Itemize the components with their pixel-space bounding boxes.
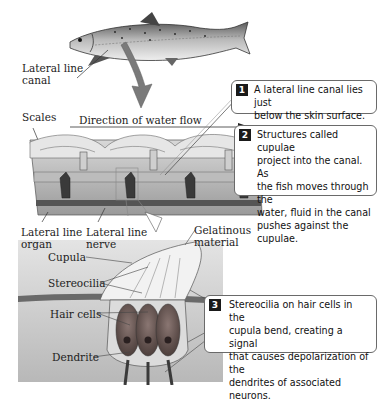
fish-body	[70, 22, 250, 61]
callout-line: Structures called cupulae	[257, 128, 371, 154]
label-line: Lateral line	[21, 226, 82, 238]
callout-line: that causes depolarization of the	[229, 350, 371, 376]
dorsal-fin	[140, 12, 160, 26]
label-hair-cells: Hair cells	[50, 308, 101, 320]
label-lateral-line-organ: Lateral line organ	[21, 226, 82, 250]
callout-line: A lateral line canal lies just	[254, 83, 371, 109]
label-stereocilia: Stereocilia	[48, 277, 105, 289]
label-line: nerve	[86, 238, 147, 250]
label-dendrite: Dendrite	[52, 351, 99, 363]
callout-3: 3 Stereocilia on hair cells in the cupul…	[204, 295, 377, 353]
step-number-badge: 1	[236, 84, 248, 96]
callout-line: project into the canal. As	[257, 154, 371, 180]
callout-line: Stereocilia on hair cells in the	[229, 298, 371, 324]
label-gelatinous-material: Gelatinous material	[194, 224, 251, 248]
label-scales: Scales	[22, 111, 56, 123]
callout-2: 2 Structures called cupulae project into…	[234, 125, 377, 196]
label-line: canal	[22, 74, 83, 86]
callout-1: 1 A lateral line canal lies just below t…	[231, 80, 377, 114]
salmon-illustration	[70, 12, 250, 66]
callout-line: water, fluid in the canal	[257, 206, 371, 219]
label-lateral-line-canal: Lateral line canal	[22, 62, 83, 86]
skin-cross-section	[30, 134, 262, 215]
label-lateral-line-nerve: Lateral line nerve	[86, 226, 147, 250]
label-direction-of-water-flow: Direction of water flow	[79, 114, 202, 126]
callout-line: the fish moves through the	[257, 180, 371, 206]
label-line: organ	[21, 238, 82, 250]
scales-leader-line	[33, 128, 38, 140]
step-number-badge: 3	[209, 299, 221, 311]
callout-line: dendrites of associated neurons.	[229, 376, 371, 402]
pelvic-fin	[165, 58, 178, 66]
label-line: Lateral line	[22, 62, 83, 74]
step-number-badge: 2	[239, 129, 251, 141]
label-line: material	[194, 236, 251, 248]
callout-line: cupula bend, creating a signal	[229, 324, 371, 350]
label-line: Gelatinous	[194, 224, 251, 236]
callout-line: pushes against the cupulae.	[257, 219, 371, 245]
callout-line: below the skin surface.	[254, 109, 371, 122]
fish-eye	[78, 38, 82, 42]
label-cupula: Cupula	[48, 251, 86, 263]
label-line: Lateral line	[86, 226, 147, 238]
